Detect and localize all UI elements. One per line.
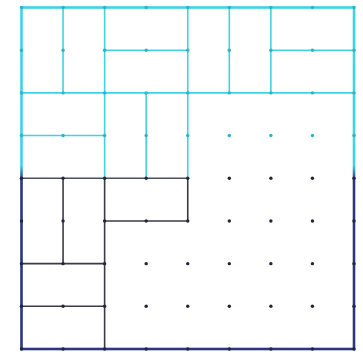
grid-point: [103, 305, 106, 308]
grid-point: [228, 219, 231, 222]
grid-point: [144, 134, 147, 137]
grid-point: [186, 219, 189, 222]
grid-point: [228, 48, 231, 51]
grid-point: [20, 177, 23, 180]
grid-point: [186, 305, 189, 308]
grid-point: [103, 347, 106, 350]
grid-point: [186, 48, 189, 51]
grid-point: [144, 6, 147, 9]
grid-point: [352, 48, 355, 51]
grid-point: [269, 262, 272, 265]
grid-point: [61, 134, 64, 137]
grid-point: [103, 91, 106, 94]
grid-point: [61, 262, 64, 265]
grid-point: [228, 347, 231, 350]
grid-point: [352, 91, 355, 94]
grid-point: [61, 91, 64, 94]
grid-point: [20, 262, 23, 265]
grid-point: [103, 262, 106, 265]
grid-point: [311, 134, 314, 137]
grid-point: [352, 305, 355, 308]
grid-point: [144, 305, 147, 308]
grid-point: [228, 6, 231, 9]
grid-point: [269, 48, 272, 51]
grid-point: [352, 177, 355, 180]
grid-point: [61, 6, 64, 9]
grid-point: [144, 177, 147, 180]
grid-point: [269, 91, 272, 94]
grid-point: [61, 219, 64, 222]
grid-point: [20, 347, 23, 350]
grid-point: [269, 219, 272, 222]
grid-point: [311, 177, 314, 180]
grid-point: [269, 305, 272, 308]
grid-point: [186, 6, 189, 9]
grid-point: [311, 219, 314, 222]
grid-point: [144, 91, 147, 94]
grid-point: [61, 48, 64, 51]
grid-point: [61, 305, 64, 308]
grid-point: [103, 177, 106, 180]
grid-point: [352, 347, 355, 350]
grid-point: [186, 177, 189, 180]
grid-point: [186, 262, 189, 265]
grid-point: [352, 134, 355, 137]
grid-point: [61, 347, 64, 350]
grid-point: [186, 91, 189, 94]
grid-point: [20, 134, 23, 137]
grid-point: [269, 6, 272, 9]
grid-point: [144, 219, 147, 222]
grid-point: [311, 347, 314, 350]
grid-point: [144, 347, 147, 350]
grid-point: [20, 219, 23, 222]
grid-point: [228, 134, 231, 137]
grid-point: [269, 134, 272, 137]
grid-point: [311, 6, 314, 9]
grid-point: [352, 262, 355, 265]
grid-point: [352, 219, 355, 222]
grid-point: [186, 134, 189, 137]
grid-point: [103, 219, 106, 222]
grid-point: [269, 347, 272, 350]
grid-point: [20, 6, 23, 9]
grid-point: [352, 6, 355, 9]
grid-point: [144, 262, 147, 265]
grid-point: [103, 48, 106, 51]
grid-point: [311, 91, 314, 94]
grid-point: [228, 91, 231, 94]
grid-point: [311, 48, 314, 51]
grid-tiling-diagram: [0, 0, 363, 352]
grid-point: [103, 134, 106, 137]
grid-point: [144, 48, 147, 51]
grid-point: [311, 262, 314, 265]
grid-point: [311, 305, 314, 308]
grid-point: [228, 305, 231, 308]
grid-point: [186, 347, 189, 350]
grid-point: [20, 48, 23, 51]
grid-point: [61, 177, 64, 180]
grid-point: [20, 305, 23, 308]
grid-point: [103, 6, 106, 9]
grid-point: [228, 177, 231, 180]
grid-point: [20, 91, 23, 94]
grid-point: [228, 262, 231, 265]
grid-point: [269, 177, 272, 180]
